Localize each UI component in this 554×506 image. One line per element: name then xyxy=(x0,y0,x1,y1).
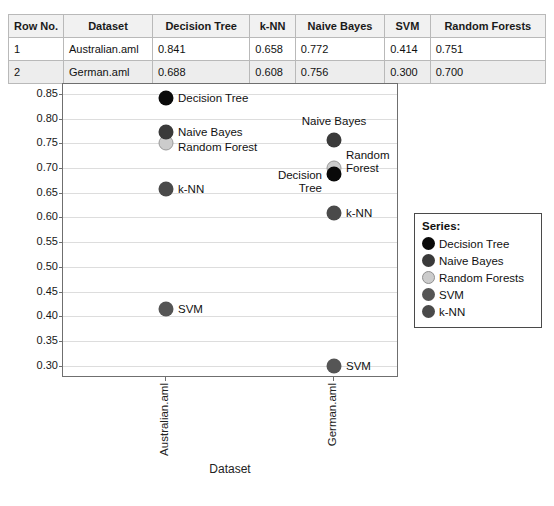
point-label: SVM xyxy=(178,303,203,316)
y-tick-mark xyxy=(59,168,63,169)
table-row: 1 Australian.aml 0.841 0.658 0.772 0.414… xyxy=(9,38,546,61)
y-tick-mark xyxy=(59,316,63,317)
legend-items: Decision TreeNaive BayesRandom ForestsSV… xyxy=(422,235,534,320)
x-axis-title: Dataset xyxy=(0,462,460,476)
y-tick-label: 0.80 xyxy=(14,112,58,124)
legend-swatch-naive-bayes xyxy=(422,254,435,267)
y-tick-mark xyxy=(59,267,63,268)
point-label: Random Forest xyxy=(346,149,389,175)
point-label: k-NN xyxy=(178,182,204,195)
y-tick-mark xyxy=(59,119,63,120)
cell-row-no: 1 xyxy=(9,38,64,61)
point-label: Decision Tree xyxy=(178,92,248,105)
gridline xyxy=(63,242,397,243)
column-header-decision-tree: Decision Tree xyxy=(153,15,250,38)
column-header-knn: k-NN xyxy=(250,15,295,38)
point-label: Decision Tree xyxy=(278,169,322,195)
column-header-dataset: Dataset xyxy=(64,15,153,38)
y-tick-label: 0.70 xyxy=(14,161,58,173)
y-tick-mark xyxy=(59,341,63,342)
gridline xyxy=(63,292,397,293)
y-tick-mark xyxy=(59,143,63,144)
y-tick-label: 0.45 xyxy=(14,285,58,297)
x-tick-mark xyxy=(333,377,334,381)
gridline xyxy=(63,316,397,317)
data-point[interactable] xyxy=(159,302,174,317)
y-tick-mark xyxy=(59,292,63,293)
y-tick-label: 0.50 xyxy=(14,260,58,272)
data-point[interactable] xyxy=(159,181,174,196)
y-tick-mark xyxy=(59,217,63,218)
y-tick-label: 0.40 xyxy=(14,309,58,321)
legend-label: SVM xyxy=(439,289,464,301)
cell-svm: 0.414 xyxy=(385,38,430,61)
y-tick-label: 0.65 xyxy=(14,186,58,198)
legend-item[interactable]: Random Forests xyxy=(422,269,534,286)
data-point[interactable] xyxy=(159,125,174,140)
x-tick-label: German.aml xyxy=(326,383,338,446)
y-tick-label: 0.55 xyxy=(14,235,58,247)
results-table: Row No. Dataset Decision Tree k-NN Naive… xyxy=(8,14,546,84)
cell-random-forests: 0.751 xyxy=(430,38,545,61)
column-header-svm: SVM xyxy=(385,15,430,38)
data-point[interactable] xyxy=(327,133,342,148)
point-label: Naive Bayes xyxy=(178,126,243,139)
y-tick-label: 0.75 xyxy=(14,136,58,148)
gridline xyxy=(63,341,397,342)
y-tick-label: 0.35 xyxy=(14,334,58,346)
y-tick-mark xyxy=(59,193,63,194)
legend-label: k-NN xyxy=(439,306,465,318)
legend-item[interactable]: Naive Bayes xyxy=(422,252,534,269)
gridline xyxy=(63,193,397,194)
x-tick-label: Australian.aml xyxy=(158,383,170,456)
scatter-chart: 0.850.800.750.700.650.600.550.500.450.40… xyxy=(0,80,554,506)
point-label: Random Forest xyxy=(178,141,257,154)
column-header-naive-bayes: Naive Bayes xyxy=(295,15,384,38)
data-point[interactable] xyxy=(327,206,342,221)
table-header-row: Row No. Dataset Decision Tree k-NN Naive… xyxy=(9,15,546,38)
y-axis: 0.850.800.750.700.650.600.550.500.450.40… xyxy=(8,83,58,377)
y-tick-mark xyxy=(59,94,63,95)
cell-naive-bayes: 0.772 xyxy=(295,38,384,61)
legend-swatch-k-nn xyxy=(422,305,435,318)
y-tick-mark xyxy=(59,366,63,367)
y-tick-label: 0.30 xyxy=(14,359,58,371)
y-tick-label: 0.85 xyxy=(14,87,58,99)
column-header-random-forests: Random Forests xyxy=(430,15,545,38)
chart-legend: Series: Decision TreeNaive BayesRandom F… xyxy=(414,213,542,328)
legend-swatch-decision-tree xyxy=(422,237,435,250)
point-label: SVM xyxy=(346,359,371,372)
legend-title: Series: xyxy=(422,220,534,232)
data-point[interactable] xyxy=(327,358,342,373)
legend-item[interactable]: SVM xyxy=(422,286,534,303)
legend-item[interactable]: Decision Tree xyxy=(422,235,534,252)
legend-swatch-random-forests xyxy=(422,271,435,284)
point-label: Naive Bayes xyxy=(302,115,367,128)
point-label: k-NN xyxy=(346,207,372,220)
legend-label: Random Forests xyxy=(439,272,524,284)
y-tick-label: 0.60 xyxy=(14,210,58,222)
column-header-row-no: Row No. xyxy=(9,15,64,38)
data-point[interactable] xyxy=(327,166,342,181)
legend-label: Decision Tree xyxy=(439,238,509,250)
legend-label: Naive Bayes xyxy=(439,255,504,267)
legend-swatch-svm xyxy=(422,288,435,301)
cell-decision-tree: 0.841 xyxy=(153,38,250,61)
y-tick-mark xyxy=(59,242,63,243)
data-point[interactable] xyxy=(159,91,174,106)
cell-dataset: Australian.aml xyxy=(64,38,153,61)
cell-knn: 0.658 xyxy=(250,38,295,61)
plot-area: Decision TreeNaive BayesRandom Forestk-N… xyxy=(62,83,398,377)
gridline xyxy=(63,267,397,268)
x-tick-mark xyxy=(165,377,166,381)
legend-item[interactable]: k-NN xyxy=(422,303,534,320)
